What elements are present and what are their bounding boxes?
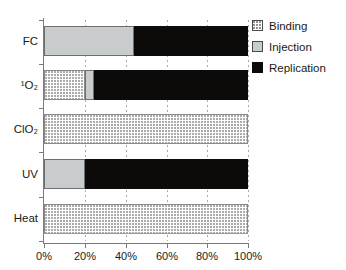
x-tick-100: [248, 244, 249, 248]
legend-label-injection: Injection: [269, 41, 312, 53]
y-label-clo2: ClO₂: [14, 123, 38, 135]
y-tick-fc: [39, 64, 43, 65]
legend-item-injection: Injection: [252, 37, 344, 56]
bar-clo2-binding: [44, 114, 248, 144]
x-label-80: 80%: [196, 250, 218, 262]
legend-item-binding: Binding: [252, 16, 344, 35]
x-label-100: 100%: [234, 250, 262, 262]
legend-item-replication: Replication: [252, 58, 344, 77]
bar-uv-replication: [85, 159, 248, 189]
x-tick-80: [207, 244, 208, 248]
y-label-fc: FC: [23, 35, 38, 47]
bar-fc-replication: [134, 26, 248, 56]
bar-heat: [44, 204, 248, 234]
x-axis-line: [43, 243, 249, 244]
y-axis-labels: FC ¹O₂ ClO₂ UV Heat: [0, 0, 38, 270]
plot-area: [44, 20, 248, 241]
x-label-60: 60%: [156, 250, 178, 262]
y-label-1o2: ¹O₂: [21, 79, 38, 91]
legend-label-replication: Replication: [269, 62, 326, 74]
heat-baseline-rule: [44, 233, 248, 234]
x-label-0: 0%: [36, 250, 52, 262]
y-tick-top: [39, 20, 43, 21]
y-label-uv: UV: [22, 168, 38, 180]
gridline-100: [248, 20, 249, 241]
x-label-40: 40%: [115, 250, 137, 262]
bar-fc-injection: [44, 26, 134, 56]
x-label-20: 20%: [74, 250, 96, 262]
bar-heat-binding: [44, 204, 248, 234]
injection-swatch-icon: [252, 41, 263, 52]
bar-clo2: [44, 114, 248, 144]
chart-legend: Binding Injection Replication: [252, 16, 344, 79]
bar-1o2-binding: [44, 70, 85, 100]
x-tick-0: [44, 244, 45, 248]
y-tick-uv: [39, 197, 43, 198]
y-tick-heat: [39, 241, 43, 242]
bar-1o2-injection: [85, 70, 94, 100]
bar-1o2: [44, 70, 248, 100]
bar-fc: [44, 26, 248, 56]
bar-1o2-replication: [94, 70, 248, 100]
y-tick-1o2: [39, 108, 43, 109]
x-tick-60: [167, 244, 168, 248]
legend-label-binding: Binding: [269, 20, 307, 32]
binding-swatch-icon: [252, 20, 263, 31]
stacked-bar-chart: FC ¹O₂ ClO₂ UV Heat 0% 20% 40% 60% 80% 1…: [0, 0, 346, 270]
replication-swatch-icon: [252, 62, 263, 73]
bar-uv-injection: [44, 159, 85, 189]
y-tick-clo2: [39, 152, 43, 153]
y-label-heat: Heat: [14, 212, 38, 224]
x-tick-40: [126, 244, 127, 248]
x-tick-20: [85, 244, 86, 248]
bar-uv: [44, 159, 248, 189]
